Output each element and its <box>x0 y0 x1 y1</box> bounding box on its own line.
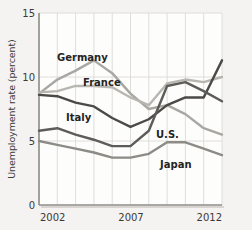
x-tick-label-2007: 2007 <box>118 212 143 223</box>
series-label-france: France <box>83 77 121 88</box>
y-tick-label-15: 15 <box>22 8 35 19</box>
series-label-japan: Japan <box>159 159 192 170</box>
series-label-germany: Germany <box>57 52 108 63</box>
series-label-us: U.S. <box>156 129 179 140</box>
y-axis-title: Unemployment rate (percent) <box>6 39 17 178</box>
y-tick-label-0: 0 <box>29 200 35 211</box>
x-tick-label-2002: 2002 <box>40 212 65 223</box>
y-tick-label-5: 5 <box>29 136 35 147</box>
x-tick-label-2012: 2012 <box>197 212 222 223</box>
series-label-italy: Italy <box>66 112 92 123</box>
y-tick-label-10: 10 <box>22 72 35 83</box>
unemployment-rate-chart: 15 10 5 0 2002 2007 2012 Unemployment ra… <box>0 0 252 230</box>
chart-canvas: 15 10 5 0 2002 2007 2012 Unemployment ra… <box>0 0 252 230</box>
